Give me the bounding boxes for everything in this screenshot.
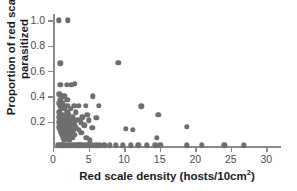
data-point bbox=[83, 103, 88, 108]
data-point bbox=[96, 103, 101, 108]
x-tick-mark bbox=[160, 147, 161, 152]
x-tick-label: 20 bbox=[182, 154, 208, 165]
x-tick-label: 25 bbox=[218, 154, 244, 165]
x-tick-mark bbox=[266, 147, 267, 152]
data-point bbox=[56, 18, 61, 23]
data-point bbox=[79, 130, 84, 135]
scatter-plot-figure: 0.20.40.60.81.0 051015202530 Red scale d… bbox=[0, 0, 297, 191]
y-tick-mark bbox=[48, 71, 53, 72]
x-tick-label: 0 bbox=[40, 154, 66, 165]
data-point bbox=[82, 123, 87, 128]
x-axis-title-main: Red scale density (hosts/10cm bbox=[79, 170, 246, 182]
data-point bbox=[72, 81, 77, 86]
x-tick-label: 10 bbox=[111, 154, 137, 165]
y-axis-title-line1: Proportion of red scales bbox=[5, 0, 18, 119]
data-point bbox=[130, 127, 135, 132]
data-point bbox=[90, 94, 95, 99]
data-point bbox=[94, 115, 99, 120]
y-axis-title-line2: parasitized bbox=[18, 0, 31, 119]
x-tick-label: 30 bbox=[253, 154, 279, 165]
y-axis-title: Proportion of red scales parasitized bbox=[5, 0, 31, 119]
data-point bbox=[57, 61, 62, 66]
x-tick-mark bbox=[124, 147, 125, 152]
data-point bbox=[156, 112, 161, 117]
data-point bbox=[65, 18, 70, 23]
data-point bbox=[89, 125, 94, 130]
x-tick-mark bbox=[195, 147, 196, 152]
x-tick-label: 15 bbox=[147, 154, 173, 165]
y-tick-mark bbox=[48, 96, 53, 97]
data-point bbox=[76, 103, 81, 108]
x-axis-title-tail: ) bbox=[251, 170, 255, 182]
y-tick-mark bbox=[48, 20, 53, 21]
y-tick-mark bbox=[48, 122, 53, 123]
y-tick-mark bbox=[48, 46, 53, 47]
data-point bbox=[65, 97, 70, 102]
x-tick-label: 5 bbox=[76, 154, 102, 165]
data-point bbox=[184, 124, 189, 129]
data-point bbox=[138, 104, 143, 109]
data-point bbox=[116, 60, 121, 65]
data-point bbox=[57, 82, 62, 87]
data-point bbox=[86, 117, 91, 122]
x-tick-mark bbox=[53, 147, 54, 152]
plot-area: 0.20.40.60.81.0 051015202530 bbox=[53, 14, 277, 147]
x-tick-mark bbox=[89, 147, 90, 152]
data-point bbox=[123, 126, 128, 131]
x-tick-mark bbox=[231, 147, 232, 152]
data-point bbox=[154, 135, 159, 140]
x-axis-title: Red scale density (hosts/10cm2) bbox=[53, 168, 281, 182]
